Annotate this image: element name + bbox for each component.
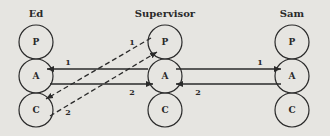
- sam-a-letter: A: [288, 71, 297, 81]
- ed-a-letter: A: [32, 71, 41, 81]
- person-label-ed: Ed: [29, 8, 44, 19]
- person-label-sam: Sam: [280, 8, 305, 19]
- ed-p-letter: P: [33, 37, 40, 47]
- supervisor-c-letter: C: [161, 105, 168, 115]
- sam-c-letter: C: [288, 105, 295, 115]
- supervisor-a-letter: A: [161, 71, 170, 81]
- label-1-sup-to-ed: 1: [65, 57, 71, 67]
- transaction-diagram: Ed Supervisor Sam P A C P A C P A C 1 2: [0, 0, 330, 136]
- label-2-dashed: 2: [65, 107, 71, 117]
- sam-p-letter: P: [289, 37, 296, 47]
- label-2-sam-to-sup: 2: [195, 87, 201, 97]
- supervisor-p-letter: P: [162, 37, 169, 47]
- label-1-sup-to-sam: 1: [257, 57, 263, 67]
- person-label-supervisor: Supervisor: [135, 8, 196, 19]
- label-2-ed-to-sup: 2: [129, 87, 135, 97]
- ed-c-letter: C: [32, 105, 39, 115]
- label-1-dashed: 1: [129, 37, 135, 47]
